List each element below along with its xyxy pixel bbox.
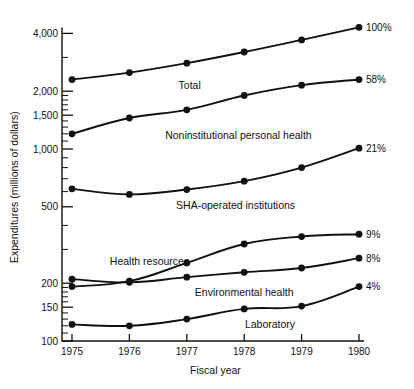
- y-axis-tick-label: 1,000: [33, 144, 58, 155]
- y-axis-tick-label: 200: [41, 278, 58, 289]
- series-inline-label: SHA-operated institutions: [176, 199, 295, 211]
- data-point-marker: [241, 92, 248, 99]
- data-point-marker: [183, 316, 190, 323]
- data-point-marker: [298, 265, 305, 272]
- data-point-marker: [126, 322, 133, 329]
- series-inline-label: Laboratory: [245, 318, 296, 330]
- data-point-marker: [126, 69, 133, 76]
- data-point-marker: [69, 283, 76, 290]
- data-point-marker: [241, 269, 248, 276]
- x-axis-tick-label: 1978: [233, 346, 256, 357]
- data-point-marker: [356, 255, 363, 262]
- y-axis-tick-label: 1,500: [33, 110, 58, 121]
- x-axis-tick-label: 1977: [176, 346, 199, 357]
- data-point-marker: [126, 191, 133, 198]
- series-line: [72, 80, 359, 134]
- data-point-marker: [183, 186, 190, 193]
- data-point-marker: [69, 321, 76, 328]
- data-point-marker: [183, 60, 190, 67]
- series-percent-label: 8%: [366, 253, 381, 264]
- y-axis-tick-label: 500: [41, 201, 58, 212]
- chart-canvas: 1001502005001,0001,5002,0004,000 1975197…: [0, 0, 414, 389]
- data-point-marker: [126, 115, 133, 122]
- expenditures-log-line-chart: 1001502005001,0001,5002,0004,000 1975197…: [0, 0, 414, 389]
- series-inline-label: Noninstitutional personal health: [165, 129, 312, 141]
- data-point-marker: [356, 145, 363, 152]
- series-percent-label: 9%: [366, 229, 381, 240]
- x-axis-tick-label: 1979: [290, 346, 313, 357]
- x-axis-tick-label: 1976: [118, 346, 141, 357]
- x-tick-group: 197519761977197819791980: [61, 334, 371, 357]
- series-percent-label: 100%: [366, 22, 392, 33]
- data-point-marker: [298, 303, 305, 310]
- data-point-marker: [298, 164, 305, 171]
- data-point-marker: [356, 231, 363, 238]
- series-line: [72, 148, 359, 194]
- series-inline-label: Total: [179, 79, 201, 91]
- data-point-marker: [356, 24, 363, 31]
- data-point-marker: [183, 274, 190, 281]
- data-point-marker: [298, 82, 305, 89]
- series-percent-label: 4%: [366, 281, 381, 292]
- series-line: [72, 27, 359, 79]
- series-percent-label: 21%: [366, 143, 386, 154]
- series-group: [72, 27, 359, 326]
- data-point-marker: [298, 233, 305, 240]
- data-point-marker: [241, 49, 248, 56]
- y-axis-tick-label: 100: [41, 336, 58, 347]
- percent-label-group: 100%58%21%9%8%4%: [366, 22, 392, 292]
- series-inline-label: Environmental health: [195, 286, 294, 298]
- data-point-marker: [69, 130, 76, 137]
- series-inline-label: Health resources: [110, 255, 189, 267]
- data-point-marker: [69, 185, 76, 192]
- y-axis-tick-label: 4,000: [33, 28, 58, 39]
- data-point-marker: [69, 76, 76, 83]
- y-axis-tick-label: 2,000: [33, 86, 58, 97]
- y-axis-tick-label: 150: [41, 302, 58, 313]
- data-point-marker: [183, 106, 190, 113]
- chart-container: 1001502005001,0001,5002,0004,000 1975197…: [0, 0, 414, 389]
- data-point-marker: [69, 276, 76, 283]
- data-point-marker: [241, 241, 248, 248]
- data-point-marker: [356, 76, 363, 83]
- data-point-marker: [241, 178, 248, 185]
- data-point-marker: [126, 279, 133, 286]
- y-axis-title: Expenditures (millions of dollars): [8, 111, 20, 263]
- x-axis-tick-label: 1975: [61, 346, 84, 357]
- data-point-marker: [356, 283, 363, 290]
- x-axis-title: Fiscal year: [190, 364, 241, 376]
- data-point-marker: [298, 37, 305, 44]
- x-axis-tick-label: 1980: [348, 346, 371, 357]
- data-point-marker: [241, 305, 248, 312]
- series-percent-label: 58%: [366, 74, 386, 85]
- y-tick-group: 1001502005001,0001,5002,0004,000: [33, 28, 73, 347]
